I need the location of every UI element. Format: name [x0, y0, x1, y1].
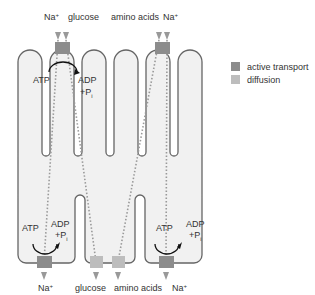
label-glucose-bottom: glucose — [75, 283, 106, 293]
diffusion-swatch — [231, 75, 240, 84]
active-transporter-bottom-right — [159, 256, 174, 268]
diffusion-channel-amino-acids — [112, 256, 125, 268]
label-na-bottom-right: Na+ — [172, 283, 187, 293]
active-transporter-top-left — [55, 42, 70, 54]
label-glucose-top: glucose — [68, 12, 99, 22]
active-transport-swatch — [231, 62, 240, 71]
label-amino-acids-top: amino acids — [111, 12, 159, 22]
label-atp-top: ATP — [33, 75, 50, 85]
label-pi-bottom-right: +Pi — [189, 230, 202, 244]
active-transporter-top-right — [155, 42, 170, 54]
label-adp-bottom-left: ADP — [51, 219, 70, 229]
diffusion-channel-glucose — [90, 256, 103, 268]
label-amino-acids-bottom: amino acids — [114, 283, 162, 293]
active-transporter-bottom-left — [37, 256, 52, 268]
label-pi-top: +Pi — [80, 87, 93, 101]
legend-item-active-transport: active transport — [231, 60, 309, 73]
label-na-bottom-left: Na+ — [38, 283, 53, 293]
label-atp-bottom-left: ATP — [22, 223, 39, 233]
label-pi-bottom-left: +Pi — [55, 230, 68, 244]
diagram-graphic — [0, 0, 315, 295]
legend-item-diffusion: diffusion — [231, 73, 309, 86]
label-na-top-right: Na+ — [163, 12, 178, 22]
label-na-top-left: Na+ — [44, 12, 59, 22]
label-adp-bottom-right: ADP — [186, 219, 205, 229]
intestinal-transport-diagram: Na+ glucose amino acids Na+ ATP ADP +Pi … — [0, 0, 315, 295]
label-atp-bottom-right: ATP — [156, 223, 173, 233]
legend: active transport diffusion — [231, 60, 309, 86]
label-adp-top: ADP — [78, 75, 97, 85]
